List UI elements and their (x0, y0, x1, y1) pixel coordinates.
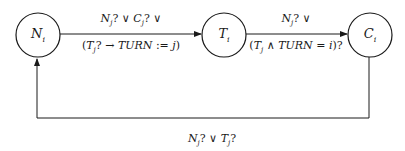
edge-n-t-label-top: Nj? ∨ Cj? ∨ (101, 12, 162, 27)
edge-c-n-label: Nj? ∨ Tj? (188, 132, 236, 147)
node-t-label: Ti (218, 26, 229, 44)
diagram-canvas (0, 0, 405, 151)
node-n-label: Ni (31, 26, 45, 44)
edge-t-c-label-top: Nj? ∨ (281, 12, 310, 27)
node-c-label: Ci (364, 26, 377, 44)
edge-c-to-n-arrow (37, 57, 369, 118)
edge-t-c-label-bottom: (Tj ∧ TURN = i)? (249, 39, 342, 54)
edge-n-t-label-bottom: (Tj? → TURN := j) (82, 39, 180, 54)
